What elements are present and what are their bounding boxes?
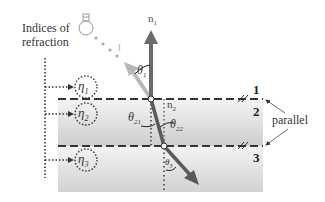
normal-n1-arrowhead (144, 30, 158, 44)
interface-label-1: 1 (253, 82, 260, 98)
normal-n2-label: n2 (167, 98, 176, 113)
parallel-label: parallel (272, 113, 308, 128)
eta1-label: η1 (78, 78, 88, 96)
theta3-label: θ3 (165, 157, 172, 169)
eta3-label: η3 (78, 151, 88, 169)
layer-label-2: 2 (253, 104, 260, 120)
theta22-label: θ22 (170, 117, 183, 133)
arrow-eta1 (68, 84, 74, 90)
incident-ray-label: l (118, 42, 121, 53)
parallel-pointer-1 (266, 100, 285, 113)
theta1-label: θ1 (137, 63, 146, 79)
title-line-1: Indices of (22, 21, 70, 35)
layer-label-3: 3 (253, 150, 260, 166)
normal-n1-label: n1 (148, 12, 157, 27)
incident-ray-dots (94, 36, 118, 57)
node-interface-2 (161, 143, 167, 149)
eta2-label: η2 (78, 105, 88, 123)
indices-title: Indices of refraction (22, 21, 70, 49)
layer-3 (58, 146, 263, 192)
node-interface-1 (148, 96, 154, 102)
parallel-pointer-2 (266, 129, 288, 145)
light-bulb-icon (79, 14, 93, 35)
theta21-label: θ21 (128, 110, 141, 126)
title-line-2: refraction (22, 35, 70, 49)
